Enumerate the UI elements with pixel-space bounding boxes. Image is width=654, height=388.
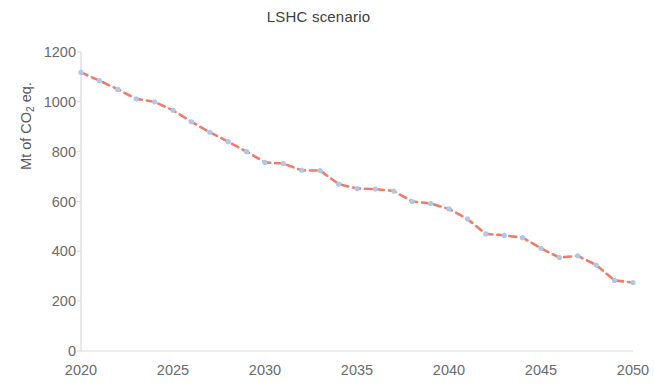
data-point-2036 bbox=[373, 186, 378, 191]
data-point-2029 bbox=[244, 149, 249, 154]
data-point-2025 bbox=[170, 108, 175, 113]
data-point-2050 bbox=[630, 280, 635, 285]
data-point-2049 bbox=[612, 278, 617, 283]
data-point-2034 bbox=[336, 181, 341, 186]
series-line-lshc bbox=[81, 72, 633, 282]
data-point-2042 bbox=[483, 231, 488, 236]
data-point-2030 bbox=[262, 160, 267, 165]
data-point-2038 bbox=[410, 199, 415, 204]
data-point-2032 bbox=[299, 168, 304, 173]
data-point-2024 bbox=[152, 99, 157, 104]
data-point-2020 bbox=[78, 70, 83, 75]
data-point-2021 bbox=[97, 78, 102, 83]
data-point-2043 bbox=[502, 233, 507, 238]
series-markers-lshc bbox=[78, 70, 635, 285]
data-point-2046 bbox=[557, 255, 562, 260]
data-point-2045 bbox=[538, 246, 543, 251]
data-point-2027 bbox=[207, 130, 212, 135]
data-point-2022 bbox=[115, 87, 120, 92]
data-series-group bbox=[78, 70, 635, 285]
data-point-2037 bbox=[391, 188, 396, 193]
data-point-2044 bbox=[520, 235, 525, 240]
data-point-2023 bbox=[134, 96, 139, 101]
data-point-2031 bbox=[281, 161, 286, 166]
data-point-2026 bbox=[189, 119, 194, 124]
data-point-2041 bbox=[465, 216, 470, 221]
data-point-2028 bbox=[226, 139, 231, 144]
axis-lines bbox=[81, 52, 633, 351]
data-point-2033 bbox=[318, 168, 323, 173]
data-point-2048 bbox=[594, 262, 599, 267]
data-point-2035 bbox=[354, 186, 359, 191]
data-point-2047 bbox=[575, 253, 580, 258]
data-point-2040 bbox=[446, 206, 451, 211]
data-point-2039 bbox=[428, 201, 433, 206]
